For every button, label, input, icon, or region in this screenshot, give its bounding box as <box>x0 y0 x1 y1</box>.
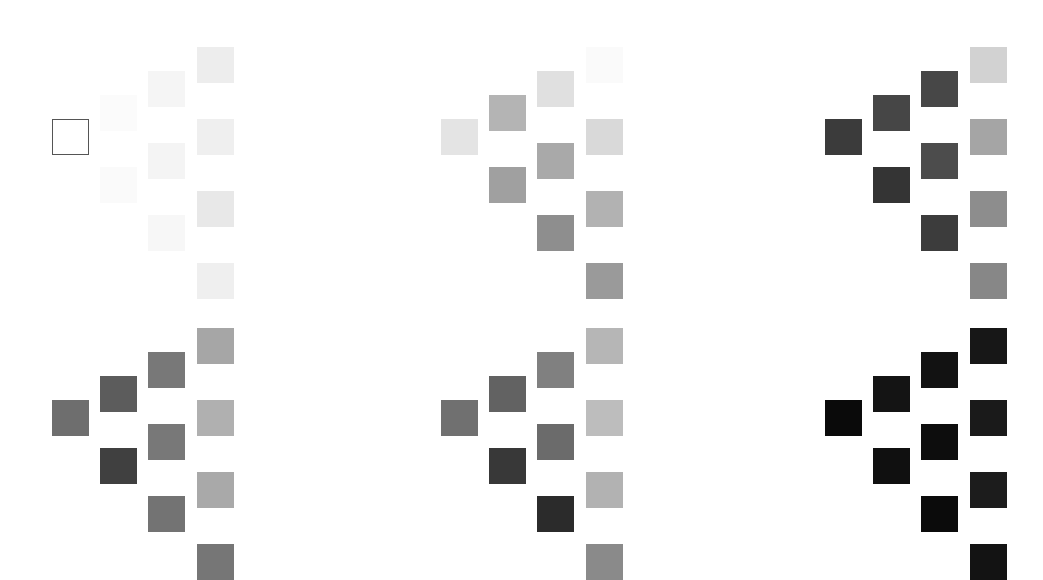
panel-top-center <box>441 47 691 287</box>
heatmap-cell <box>970 328 1007 364</box>
heatmap-cell <box>489 95 526 131</box>
heatmap-cell <box>970 191 1007 227</box>
heatmap-cell <box>970 263 1007 299</box>
heatmap-cell <box>970 400 1007 436</box>
panel-bottom-left <box>52 328 302 568</box>
heatmap-cell <box>537 71 574 107</box>
heatmap-cell <box>148 143 185 179</box>
heatmap-cell <box>148 352 185 388</box>
heatmap-cell <box>537 215 574 251</box>
heatmap-cell <box>441 400 478 436</box>
panel-top-right <box>825 47 1043 287</box>
heatmap-cell <box>921 496 958 532</box>
panel-bottom-center <box>441 328 691 568</box>
heatmap-cell <box>921 215 958 251</box>
heatmap-cell <box>873 376 910 412</box>
heatmap-cell <box>52 400 89 436</box>
panel-top-left <box>52 47 302 287</box>
heatmap-cell <box>586 544 623 580</box>
heatmap-cell <box>100 448 137 484</box>
heatmap-cell <box>197 472 234 508</box>
heatmap-cell <box>441 119 478 155</box>
heatmap-cell <box>825 119 862 155</box>
heatmap-cell <box>970 47 1007 83</box>
heatmap-cell <box>100 95 137 131</box>
heatmap-cell <box>970 544 1007 580</box>
heatmap-cell <box>970 472 1007 508</box>
heatmap-cell <box>586 119 623 155</box>
heatmap-cell <box>197 544 234 580</box>
heatmap-cell <box>921 424 958 460</box>
heatmap-cell <box>586 191 623 227</box>
heatmap-cell <box>586 47 623 83</box>
heatmap-cell <box>586 472 623 508</box>
heatmap-cell <box>52 119 89 155</box>
heatmap-cell <box>586 400 623 436</box>
heatmap-cell <box>489 376 526 412</box>
heatmap-cell <box>537 143 574 179</box>
heatmap-cell <box>100 376 137 412</box>
heatmap-cell <box>921 71 958 107</box>
heatmap-cell <box>537 424 574 460</box>
heatmap-cell <box>197 119 234 155</box>
heatmap-cell <box>970 119 1007 155</box>
heatmap-cell <box>586 263 623 299</box>
heatmap-cell <box>489 167 526 203</box>
heatmap-cell <box>197 47 234 83</box>
heatmap-cell <box>148 424 185 460</box>
heatmap-cell <box>921 352 958 388</box>
heatmap-cell <box>825 400 862 436</box>
heatmap-cell <box>537 352 574 388</box>
heatmap-cell <box>921 143 958 179</box>
heatmap-cell <box>489 448 526 484</box>
heatmap-cell <box>148 71 185 107</box>
heatmap-cell <box>100 167 137 203</box>
heatmap-cell <box>148 496 185 532</box>
heatmap-cell <box>873 95 910 131</box>
heatmap-cell <box>873 167 910 203</box>
heatmap-cell <box>873 448 910 484</box>
heatmap-cell <box>197 328 234 364</box>
heatmap-cell <box>197 191 234 227</box>
heatmap-cell <box>197 263 234 299</box>
heatmap-cell <box>148 215 185 251</box>
heatmap-cell <box>586 328 623 364</box>
heatmap-cell <box>197 400 234 436</box>
heatmap-cell <box>537 496 574 532</box>
panel-bottom-right <box>825 328 1043 568</box>
